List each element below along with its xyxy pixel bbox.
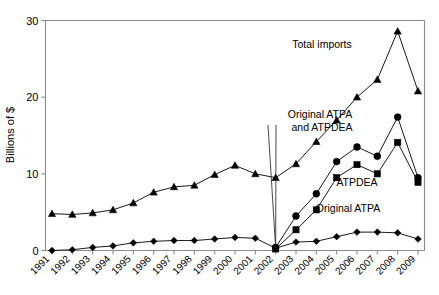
data-point-square [293,227,299,233]
chart-container: 0102030 19911992199319941995199619971998… [0,0,439,295]
series-annotation: Original ATPA [288,108,352,120]
y-tick-label: 30 [26,15,38,27]
y-tick-label: 0 [32,245,38,257]
data-point-circle [354,144,361,151]
data-point-circle [333,158,340,165]
data-point-circle [374,153,381,160]
series-annotation: Original ATPA [316,202,380,214]
y-tick-label: 10 [26,168,38,180]
data-point-square [415,179,421,185]
series-annotation: and ATPDEA [291,121,352,133]
y-tick-label: 20 [26,91,38,103]
data-point-circle [313,190,320,197]
data-point-circle [394,114,401,121]
series-annotation: ATPDEA [336,176,377,188]
data-point-square [354,162,360,168]
series-annotation: Total imports [292,38,352,50]
line-chart: 0102030 19911992199319941995199619971998… [0,0,439,295]
data-point-square [395,139,401,145]
data-point-circle [293,213,300,220]
y-axis-title: Billions of $ [4,107,16,163]
